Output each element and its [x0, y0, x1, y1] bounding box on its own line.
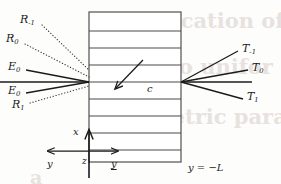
transmitted-order-minus-1-label: T-1 [242, 43, 256, 54]
x-axis-label: x [73, 127, 79, 137]
incident-ray-upper [26, 70, 89, 82]
reflected-order-1-label: R1 [12, 99, 25, 110]
reflected-order-0-label: R0 [6, 33, 19, 44]
reflected-order-minus-1-label: R-1 [20, 14, 35, 25]
y-axis-left-label: y [47, 159, 53, 169]
multilayer-diffraction-figure: plication of RCW s to unifor eometric pa… [0, 0, 281, 184]
incident-ray-upper-label: E0 [8, 61, 20, 72]
y-axis-right-label: y [111, 159, 117, 169]
diagram-canvas [0, 0, 281, 184]
stack-outline [89, 12, 181, 162]
reflected-order-1-ray [30, 86, 89, 103]
transmitted-order-1-ray [181, 82, 243, 99]
transmitted-orders [181, 51, 252, 99]
z-axis-origin-label: z [82, 157, 87, 166]
transmitted-order-1-label: T1 [247, 91, 259, 102]
incident-ray-lower-label: E0 [8, 85, 20, 96]
reflected-order-minus-1-ray [42, 25, 89, 70]
incident-ray-lower [26, 82, 89, 93]
transmitted-order-0-label: T0 [252, 62, 264, 73]
layered-medium-stack [89, 12, 181, 162]
velocity-vector-c-label: c [147, 84, 153, 94]
boundary-label-y-equals-minus-L: y = −L [188, 163, 223, 173]
